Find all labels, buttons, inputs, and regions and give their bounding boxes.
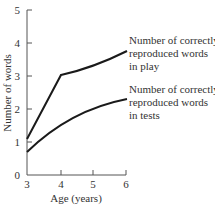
x-tick-label: 4 [58,178,64,190]
y-axis-title: Number of words [1,54,13,132]
series-tests-line [27,99,127,152]
series-play-line [27,51,127,139]
y-tick-label: 4 [15,37,21,49]
svg-text:reproduced words: reproduced words [129,47,208,59]
svg-text:in tests: in tests [129,109,160,121]
y-tick-label: 3 [15,70,21,82]
x-axis: 3 4 5 6 Age (years) [24,170,129,205]
x-tick-label: 3 [24,178,30,190]
y-tick-label: 5 [15,4,21,16]
chart: 5 4 3 2 1 0 Number of words 3 4 5 6 Age … [0,0,215,207]
annotation-play: Number of correctly reproduced words in … [129,34,215,72]
x-axis-title: Age (years) [50,192,102,205]
y-tick-label: 0 [15,169,21,181]
y-axis: 5 4 3 2 1 0 Number of words [1,4,32,181]
x-tick-label: 5 [90,178,96,190]
svg-text:in play: in play [129,60,160,72]
svg-text:Number of correctly: Number of correctly [129,34,215,46]
y-tick-label: 2 [15,103,21,115]
x-tick-label: 6 [123,178,129,190]
svg-text:Number of correctly: Number of correctly [129,83,215,95]
y-tick-label: 1 [15,136,21,148]
svg-text:reproduced words: reproduced words [129,96,208,108]
annotation-tests: Number of correctly reproduced words in … [129,83,215,121]
